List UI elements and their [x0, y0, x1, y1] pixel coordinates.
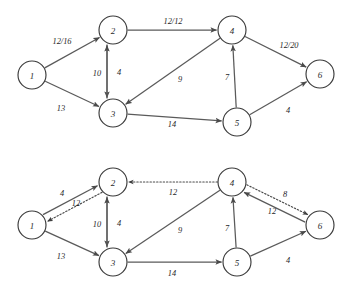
edge-label-r5-4: 7: [225, 224, 230, 233]
edge-r4-6: [247, 185, 308, 215]
edge-r1-3: [45, 231, 99, 256]
node-label: 4: [230, 26, 235, 36]
node-label: 2: [111, 26, 116, 36]
node-label: 4: [230, 178, 235, 188]
edges-layer: [43, 30, 308, 262]
edge-label-e5-6: 4: [286, 106, 290, 115]
node-label: 3: [110, 109, 116, 119]
nodes-layer: 123456123456: [18, 16, 334, 276]
flow-network-figure: 123456123456 12/161312/12410914712/20441…: [0, 0, 349, 300]
node-residual-network-5[interactable]: 5: [223, 248, 251, 276]
node-flow-network-4[interactable]: 4: [218, 16, 246, 44]
node-label: 1: [30, 71, 35, 81]
figure-root: 123456123456 12/161312/12410914712/20441…: [0, 0, 349, 300]
edge-label-e1-2: 12/16: [52, 37, 72, 46]
node-flow-network-3[interactable]: 3: [99, 99, 127, 127]
edge-label-e5-4: 7: [225, 73, 230, 82]
node-residual-network-3[interactable]: 3: [99, 248, 127, 276]
node-label: 1: [30, 221, 35, 231]
node-flow-network-6[interactable]: 6: [306, 60, 334, 88]
edge-e5-4: [233, 45, 236, 107]
node-flow-network-1[interactable]: 1: [18, 61, 46, 89]
node-residual-network-6[interactable]: 6: [306, 211, 334, 239]
node-label: 3: [110, 258, 116, 268]
edge-label-e3-5: 14: [168, 120, 176, 129]
edge-label-r1-2: 4: [60, 189, 64, 198]
edge-r1-2: [43, 186, 97, 215]
edge-label-r4-6: 12: [268, 207, 276, 216]
node-label: 6: [318, 221, 323, 231]
node-residual-network-1[interactable]: 1: [18, 211, 46, 239]
edge-labels-layer: 12/161312/12410914712/204412131241091478…: [52, 17, 299, 278]
edge-label-e1-3: 13: [57, 104, 65, 113]
edge-label-r1-3: 13: [57, 252, 65, 261]
node-flow-network-5[interactable]: 5: [223, 108, 251, 136]
edge-r5-6: [250, 231, 306, 256]
edge-label-e4-3: 9: [178, 75, 183, 84]
node-label: 5: [235, 258, 240, 268]
edge-label-r2-3: 4: [117, 219, 121, 228]
node-label: 6: [318, 70, 323, 80]
edge-label-r4-2: 12: [169, 188, 177, 197]
edge-label-r3-5: 14: [168, 269, 176, 278]
node-label: 2: [111, 178, 116, 188]
edge-e4-3: [126, 38, 220, 104]
node-label: 5: [235, 118, 240, 128]
edge-e1-3: [45, 81, 99, 106]
edge-e5-6: [250, 82, 307, 115]
edge-label-e2-3: 4: [117, 68, 121, 77]
node-residual-network-4[interactable]: 4: [218, 168, 246, 196]
edge-label-e4-6: 12/20: [279, 41, 299, 50]
edge-label-r2-1: 12: [72, 199, 80, 208]
edge-label-e3-2: 10: [93, 69, 102, 78]
edge-label-r3-2: 10: [93, 220, 102, 229]
edge-label-e2-4: 12/12: [163, 17, 182, 26]
edge-r5-4: [233, 197, 236, 247]
edge-label-r5-6: 4: [286, 256, 290, 265]
node-flow-network-2[interactable]: 2: [99, 16, 127, 44]
edge-r4-3: [126, 190, 220, 253]
edge-label-r6-4: 8: [283, 190, 288, 199]
node-residual-network-2[interactable]: 2: [99, 168, 127, 196]
edge-label-r4-3: 9: [178, 226, 183, 235]
